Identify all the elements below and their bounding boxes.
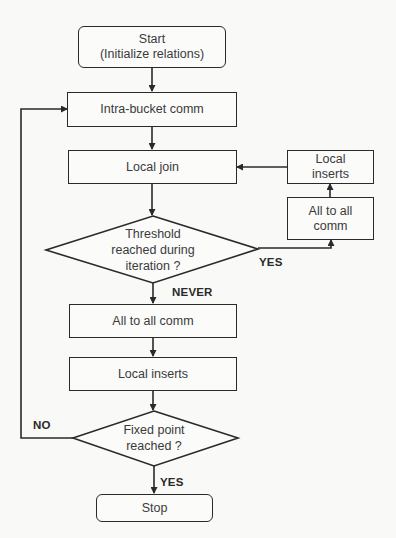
stop-node: Stop — [96, 494, 213, 522]
start-label: Start — [139, 32, 165, 47]
fixed-point-line1: Fixed point — [123, 422, 184, 438]
threshold-yes-label: YES — [259, 256, 283, 268]
start-node: Start (Initialize relations) — [78, 26, 226, 68]
threshold-decision-node: Threshold reached during iteration ? — [93, 224, 213, 276]
side-local-inserts-line2: inserts — [312, 167, 349, 182]
local-join-node: Local join — [68, 150, 237, 184]
threshold-line2: reached during — [111, 242, 194, 258]
threshold-line1: Threshold — [125, 226, 181, 242]
stop-label: Stop — [142, 501, 168, 516]
local-inserts-node: Local inserts — [69, 357, 237, 391]
flowchart: Start (Initialize relations) Intra-bucke… — [0, 0, 396, 538]
side-local-inserts-line1: Local — [316, 152, 346, 167]
all-to-all-comm-label: All to all comm — [112, 314, 193, 329]
intra-bucket-comm-label: Intra-bucket comm — [100, 102, 204, 117]
threshold-never-label: NEVER — [172, 286, 213, 298]
start-sublabel: (Initialize relations) — [100, 47, 204, 62]
side-all-to-all-comm-node: All to all comm — [287, 197, 374, 240]
fixed-point-line2: reached ? — [126, 438, 182, 454]
edge-threshold-yes — [258, 240, 331, 248]
threshold-line3: iteration ? — [126, 258, 181, 274]
fixed-point-yes-label: YES — [160, 476, 184, 488]
edge-fixed-no-loop — [21, 109, 73, 438]
local-inserts-label: Local inserts — [118, 367, 188, 382]
side-local-inserts-node: Local inserts — [287, 150, 374, 184]
local-join-label: Local join — [126, 160, 179, 175]
all-to-all-comm-node: All to all comm — [69, 304, 237, 338]
fixed-point-decision-node: Fixed point reached ? — [104, 420, 204, 456]
fixed-point-no-label: NO — [33, 419, 51, 431]
side-all-to-all-line1: All to all — [309, 204, 353, 219]
side-all-to-all-line2: comm — [313, 219, 347, 234]
intra-bucket-comm-node: Intra-bucket comm — [67, 92, 237, 127]
